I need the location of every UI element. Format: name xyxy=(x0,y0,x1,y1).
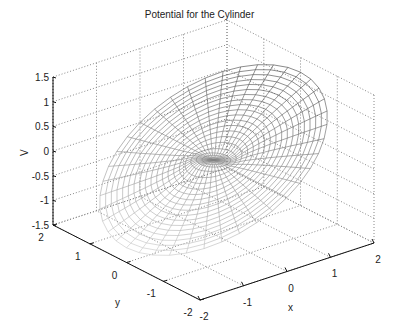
z-tick-label: -1.5 xyxy=(32,220,50,231)
y-tick-label: 2 xyxy=(38,232,44,243)
x-tick-label: -1 xyxy=(243,297,252,308)
surface-mesh xyxy=(100,65,327,256)
y-tick-label: -2 xyxy=(184,307,193,318)
x-tick-label: 1 xyxy=(332,268,338,279)
z-tick-label: 1.5 xyxy=(35,72,49,83)
x-axis-label: x xyxy=(288,302,293,313)
surface-plot-3d: -2-1012-2-1012-1.5-1-0.500.511.5 x y V xyxy=(0,0,399,328)
z-tick-label: 1 xyxy=(43,97,49,108)
y-tick-label: 1 xyxy=(75,251,81,262)
x-tick-label: -2 xyxy=(200,311,209,322)
y-axis-label: y xyxy=(115,297,120,308)
y-tick-label: 0 xyxy=(112,270,118,281)
x-tick-label: 2 xyxy=(375,254,381,265)
z-tick-label: -0.5 xyxy=(32,171,50,182)
z-tick-label: 0 xyxy=(43,146,49,157)
z-tick-label: 0.5 xyxy=(35,121,49,132)
z-tick-label: -1 xyxy=(40,195,49,206)
x-tick-label: 0 xyxy=(288,283,294,294)
y-tick-label: -1 xyxy=(147,288,156,299)
tick-labels: -2-1012-2-1012-1.5-1-0.500.511.5 xyxy=(32,72,381,322)
z-axis-label: V xyxy=(19,149,30,156)
